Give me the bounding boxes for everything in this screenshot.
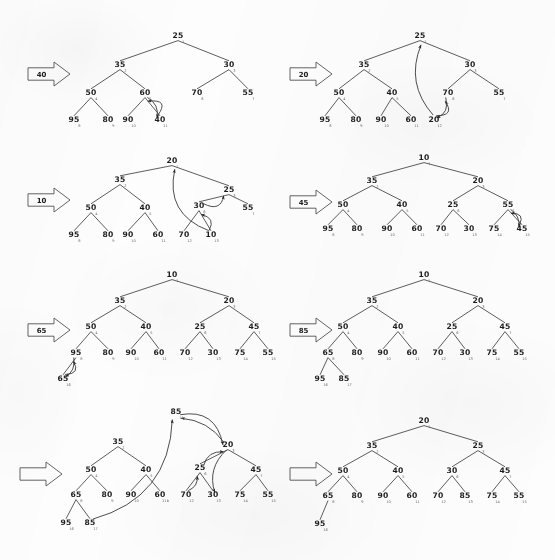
heap-node[interactable]: 203 (473, 296, 485, 309)
heap-node[interactable]: 352 (367, 441, 379, 454)
heap-node[interactable]: 352 (367, 176, 379, 189)
heap-node-index: 14 (243, 357, 248, 361)
heap-node[interactable]: 809 (352, 491, 365, 504)
heap-node[interactable]: 6011 (154, 348, 167, 361)
heap-node[interactable]: 203 (224, 296, 236, 309)
heap-node[interactable]: 557 (243, 88, 255, 101)
heap-node[interactable]: 958 (323, 224, 336, 237)
tree-edge (505, 476, 519, 492)
heap-node[interactable]: 8511 (171, 407, 184, 420)
heap-node[interactable]: 5515 (263, 348, 276, 361)
heap-node[interactable]: 352 (113, 437, 125, 450)
heap-node[interactable]: 557 (243, 203, 255, 216)
heap-node[interactable]: 7012 (433, 348, 446, 361)
heap-node[interactable]: 3013 (208, 490, 221, 503)
heap-node[interactable]: 809 (103, 115, 116, 128)
heap-node[interactable]: 9516 (315, 374, 329, 387)
heap-node[interactable]: 7012 (180, 348, 193, 361)
heap-node[interactable]: 6011 (412, 224, 425, 237)
heap-node[interactable]: 303 (465, 60, 477, 73)
tree-edge (441, 210, 453, 225)
heap-node[interactable]: 7514 (489, 224, 503, 237)
heap-node[interactable]: 352 (115, 60, 127, 73)
heap-node[interactable]: 809 (351, 115, 364, 128)
heap-node[interactable]: 6011b (155, 490, 170, 503)
panel-3: 1020135225350440530655795880990106011701… (28, 156, 255, 243)
heap-node[interactable]: 7514 (487, 491, 501, 504)
heap-node[interactable]: 706 (192, 88, 205, 101)
tree-edge (76, 475, 91, 491)
heap-node[interactable]: 958 (320, 115, 333, 128)
heap-node[interactable]: 203 (473, 176, 485, 189)
heap-node-index: 10 (134, 499, 139, 503)
heap-node[interactable]: 9010 (126, 348, 140, 361)
heap-node[interactable]: 203 (223, 440, 235, 453)
heap-node[interactable]: 352 (115, 296, 127, 309)
heap-node[interactable]: 7514 (487, 348, 501, 361)
heap-node[interactable]: 6011 (407, 491, 420, 504)
heap-node[interactable]: 6011 (407, 348, 420, 361)
heap-node[interactable]: 9516 (61, 518, 75, 531)
heap-node[interactable]: 809 (352, 224, 365, 237)
heap-node[interactable]: 8517 (85, 518, 98, 531)
heap-node[interactable]: 958 (69, 115, 82, 128)
heap-node[interactable]: 352 (115, 175, 127, 188)
heap-node-index: 6 (204, 331, 207, 335)
heap-node[interactable]: 9010 (123, 115, 137, 128)
heap-node[interactable]: 6516 (58, 374, 72, 387)
heap-node[interactable]: 809 (103, 230, 116, 243)
heap-node[interactable]: 658 (323, 491, 336, 504)
heap-node[interactable]: 557 (494, 88, 506, 101)
heap-node-index: 3 (233, 305, 235, 309)
heap-node[interactable]: 9010 (376, 115, 390, 128)
heap-node[interactable]: 958 (69, 230, 82, 243)
heap-node[interactable]: 9010 (378, 348, 392, 361)
heap-node-index: 10 (131, 239, 136, 243)
heap-node[interactable]: 1013 (206, 230, 219, 243)
heap-node[interactable]: 9010 (378, 491, 392, 504)
heap-node[interactable]: 958 (71, 348, 84, 361)
heap-node[interactable]: 809 (352, 348, 365, 361)
heap-node-index: 7 (512, 209, 514, 213)
heap-node[interactable]: 3013 (208, 348, 221, 361)
heap-node[interactable]: 7012 (179, 230, 192, 243)
heap-node-index: 12 (441, 500, 446, 504)
tree-edge (328, 358, 344, 375)
heap-node[interactable]: 9010 (123, 230, 137, 243)
heap-node[interactable]: 7514 (235, 490, 249, 503)
heap-node-index: 11b (162, 499, 170, 503)
heap-node-index: 3 (482, 185, 484, 189)
heap-node-index: 9 (112, 357, 115, 361)
heap-node[interactable]: 7012 (433, 491, 446, 504)
heap-node[interactable]: 8513 (460, 491, 473, 504)
heap-node[interactable]: 4515 (517, 224, 530, 237)
heap-node-index: 4 (347, 209, 350, 213)
heap-node[interactable]: 4011 (155, 115, 168, 128)
heap-node[interactable]: 6011 (153, 230, 166, 243)
heap-node[interactable]: 3013 (464, 224, 477, 237)
heap-node-index: 4 (95, 474, 98, 478)
heap-node[interactable]: 7514 (235, 348, 249, 361)
heap-node[interactable]: 6011 (406, 115, 419, 128)
tree-edge (185, 332, 200, 349)
heap-node-index: 11 (162, 357, 167, 361)
heap-node[interactable]: 7012 (181, 490, 194, 503)
heap-node[interactable]: 809 (102, 490, 115, 503)
heap-node[interactable]: 9010 (382, 224, 396, 237)
heap-node[interactable]: 809 (103, 348, 116, 361)
heap-node[interactable]: 9516 (315, 519, 329, 532)
operation-arrow-label: 85 (299, 327, 309, 335)
heap-node[interactable]: 3013 (460, 348, 473, 361)
heap-node[interactable]: 8517 (339, 374, 352, 387)
heap-node[interactable]: 352 (359, 60, 371, 73)
heap-node[interactable]: 7012 (436, 224, 449, 237)
tree-edge (398, 332, 412, 349)
heap-node[interactable]: 5515 (514, 491, 527, 504)
heap-node[interactable]: 253 (473, 441, 485, 454)
heap-node[interactable]: 352 (367, 296, 379, 309)
heap-node[interactable]: 5515 (514, 348, 527, 361)
tree-edge (320, 501, 328, 520)
heap-node[interactable]: 706 (443, 88, 456, 101)
heap-node[interactable]: 5515 (263, 490, 276, 503)
swap-arc (203, 196, 223, 207)
